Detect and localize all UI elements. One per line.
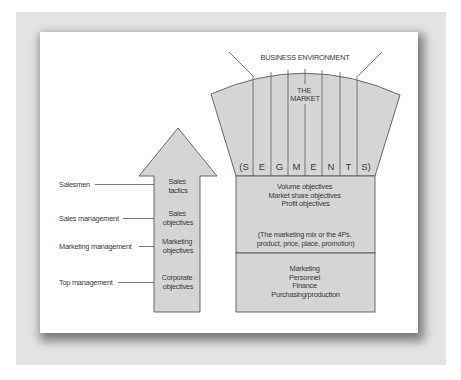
svg-text:S): S)	[361, 161, 371, 172]
svg-text:N: N	[328, 161, 335, 172]
svg-text:Sales tactics: Sales tactics	[168, 177, 188, 195]
svg-text:E: E	[310, 161, 316, 172]
marketing-mix-text: (The marketing mix or the 4Ps, product, …	[257, 230, 355, 248]
svg-text:M: M	[293, 161, 301, 172]
svg-text:Corporate objectives: Corporate objectives	[162, 273, 194, 291]
svg-text:E: E	[259, 161, 265, 172]
marketing-planning-diagram: BUSINESS ENVIRONMENT THE MARKET (S E G M…	[0, 0, 461, 380]
role-labels: Salesmen Sales management Marketing mana…	[59, 180, 154, 287]
role-top-management: Top management	[59, 278, 113, 287]
svg-text:T: T	[346, 161, 352, 172]
environment-line-right	[358, 52, 382, 76]
svg-text:G: G	[276, 161, 283, 172]
role-marketing-management: Marketing management	[59, 242, 132, 251]
role-sales-management: Sales management	[59, 214, 119, 223]
role-salesmen: Salesmen	[59, 180, 90, 189]
business-environment-label: BUSINESS ENVIRONMENT	[260, 53, 350, 62]
svg-text:Marketing objectives: Marketing objectives	[162, 237, 194, 255]
environment-line-left	[229, 52, 253, 76]
svg-text:(S: (S	[239, 161, 249, 172]
